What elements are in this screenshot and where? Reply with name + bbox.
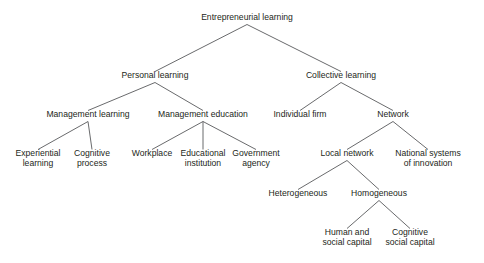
node-label-line: Network <box>377 109 409 119</box>
node-local-network: Local network <box>320 148 374 158</box>
node-management-education: Management education <box>158 109 248 119</box>
edge-local-network-to-heterogeneous <box>298 161 347 190</box>
node-label-line: Entrepreneurial learning <box>201 12 293 22</box>
edge-collective-learning-to-network <box>341 83 393 111</box>
hierarchy-svg: Entrepreneurial learningPersonal learnin… <box>0 0 484 263</box>
node-experiential-learning: Experientiallearning <box>16 148 61 168</box>
node-workplace: Workplace <box>132 148 173 158</box>
node-label-line: process <box>77 158 107 168</box>
node-label-line: Workplace <box>132 148 173 158</box>
node-label-line: Personal learning <box>122 70 189 80</box>
node-individual-firm: Individual firm <box>273 109 326 119</box>
node-label-line: Cognitive <box>74 148 110 158</box>
node-label-line: Cognitive <box>392 227 428 237</box>
node-government-agency: Governmentagency <box>232 148 280 168</box>
edge-management-learning-to-experiential-learning <box>38 122 88 150</box>
node-label-line: social capital <box>385 237 434 247</box>
edge-collective-learning-to-individual-firm <box>300 83 341 111</box>
node-personal-learning: Personal learning <box>122 70 189 80</box>
node-management-learning: Management learning <box>46 109 129 119</box>
node-label-line: National systems <box>395 148 460 158</box>
node-label-line: Management education <box>158 109 248 119</box>
node-label-line: Educational <box>181 148 226 158</box>
node-homogeneous: Homogeneous <box>351 188 407 198</box>
tree-diagram: Entrepreneurial learningPersonal learnin… <box>0 0 484 263</box>
node-label-line: of innovation <box>404 158 453 168</box>
node-label-line: Management learning <box>46 109 129 119</box>
node-national-systems-of-innovation: National systemsof innovation <box>395 148 460 168</box>
node-label-line: Human and <box>325 227 370 237</box>
node-entrepreneurial-learning: Entrepreneurial learning <box>201 12 293 22</box>
edge-network-to-national-systems-of-innovation <box>393 122 428 150</box>
node-label-line: Government <box>232 148 280 158</box>
node-label-line: Experiential <box>16 148 61 158</box>
edge-homogeneous-to-cognitive-social-capital <box>379 201 410 229</box>
edge-homogeneous-to-human-and-social-capital <box>347 201 379 229</box>
node-cognitive-process: Cognitiveprocess <box>74 148 110 168</box>
node-collective-learning: Collective learning <box>306 70 376 80</box>
node-label-line: Local network <box>320 148 374 158</box>
node-label-line: Homogeneous <box>351 188 407 198</box>
edge-local-network-to-homogeneous <box>347 161 379 190</box>
node-label-line: agency <box>242 158 270 168</box>
edge-network-to-local-network <box>347 122 393 150</box>
node-human-and-social-capital: Human andsocial capital <box>322 227 371 247</box>
node-label-line: learning <box>23 158 54 168</box>
nodes-group: Entrepreneurial learningPersonal learnin… <box>16 12 461 247</box>
edge-entrepreneurial-learning-to-collective-learning <box>247 25 341 72</box>
node-network: Network <box>377 109 409 119</box>
node-cognitive-social-capital: Cognitivesocial capital <box>385 227 434 247</box>
edge-entrepreneurial-learning-to-personal-learning <box>155 25 247 72</box>
node-label-line: Individual firm <box>273 109 326 119</box>
node-label-line: institution <box>185 158 222 168</box>
edge-management-education-to-government-agency <box>203 122 256 150</box>
edge-personal-learning-to-management-education <box>155 83 203 111</box>
node-label-line: Collective learning <box>306 70 376 80</box>
edge-management-learning-to-cognitive-process <box>88 122 92 150</box>
edge-personal-learning-to-management-learning <box>88 83 155 111</box>
edge-management-education-to-workplace <box>152 122 203 150</box>
node-educational-institution: Educationalinstitution <box>181 148 226 168</box>
node-label-line: Heterogeneous <box>269 188 328 198</box>
node-label-line: social capital <box>322 237 371 247</box>
node-heterogeneous: Heterogeneous <box>269 188 328 198</box>
